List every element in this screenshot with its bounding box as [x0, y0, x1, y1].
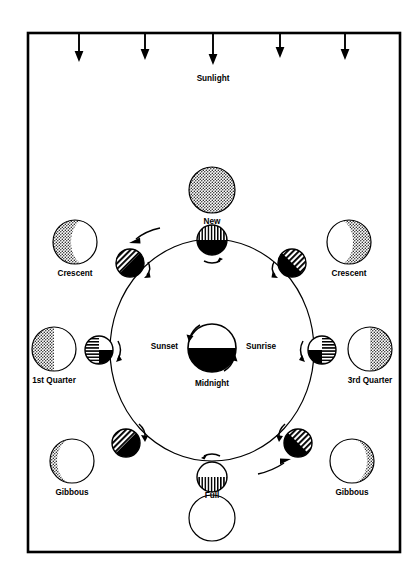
sunlight-ray: [141, 34, 150, 60]
sunlight-rays: [75, 34, 350, 65]
moon-rotation-arrow-icon: [204, 258, 223, 264]
phase-view-crescent-left: [51, 218, 101, 266]
orbit-moon-waning-gibbous: [276, 424, 312, 457]
phase-view-gibbous-right: [328, 437, 376, 485]
orbit-moon-first-quarter: [85, 336, 122, 364]
sunlight-ray: [276, 34, 285, 58]
orbit-moon-waxing-crescent: [110, 243, 151, 278]
orbit-direction-arrow-icon: [129, 228, 160, 244]
orbit-moon-third-quarter: [299, 336, 336, 364]
diagram-canvas: Sunlight: [0, 0, 418, 585]
moon-rotation-arrow-icon: [116, 341, 122, 362]
phase-label-crescent-left: Crescent: [57, 269, 92, 278]
earth-label-midnight: Midnight: [195, 379, 229, 388]
earth-label-sunset: Sunset: [151, 342, 179, 351]
phase-view-third-quarter: [346, 325, 394, 373]
phase-view-crescent-right: [323, 218, 373, 266]
phase-label-full: Full: [205, 491, 220, 500]
phase-label-gibbous-left: Gibbous: [55, 488, 89, 497]
phase-label-new: New: [204, 217, 221, 226]
earth: [186, 322, 238, 374]
phase-label-crescent-right: Crescent: [331, 269, 366, 278]
orbit-moon-new: [195, 223, 229, 263]
earth-label-sunrise: Sunrise: [246, 342, 276, 351]
moon-rotation-arrow-icon: [299, 341, 305, 362]
orbit-direction-arrow-icon: [258, 459, 291, 475]
moon-rotation-arrow-icon: [201, 454, 220, 460]
phase-label-third-quarter: 3rd Quarter: [348, 376, 393, 385]
phase-label-first-quarter: 1st Quarter: [32, 376, 76, 385]
phase-view-full: [189, 495, 235, 541]
sunlight-ray: [341, 34, 350, 60]
phase-view-new: [187, 165, 237, 215]
phase-label-gibbous-right: Gibbous: [335, 488, 369, 497]
lunar-phases-diagram: Sunlight: [0, 0, 418, 585]
sunlight-ray: [75, 34, 84, 62]
orbit-moon-waxing-gibbous: [112, 424, 148, 457]
sunlight-label: Sunlight: [197, 74, 230, 83]
sunlight-ray: [209, 34, 218, 65]
phase-view-first-quarter: [30, 325, 78, 373]
phase-view-gibbous-left: [48, 437, 96, 485]
